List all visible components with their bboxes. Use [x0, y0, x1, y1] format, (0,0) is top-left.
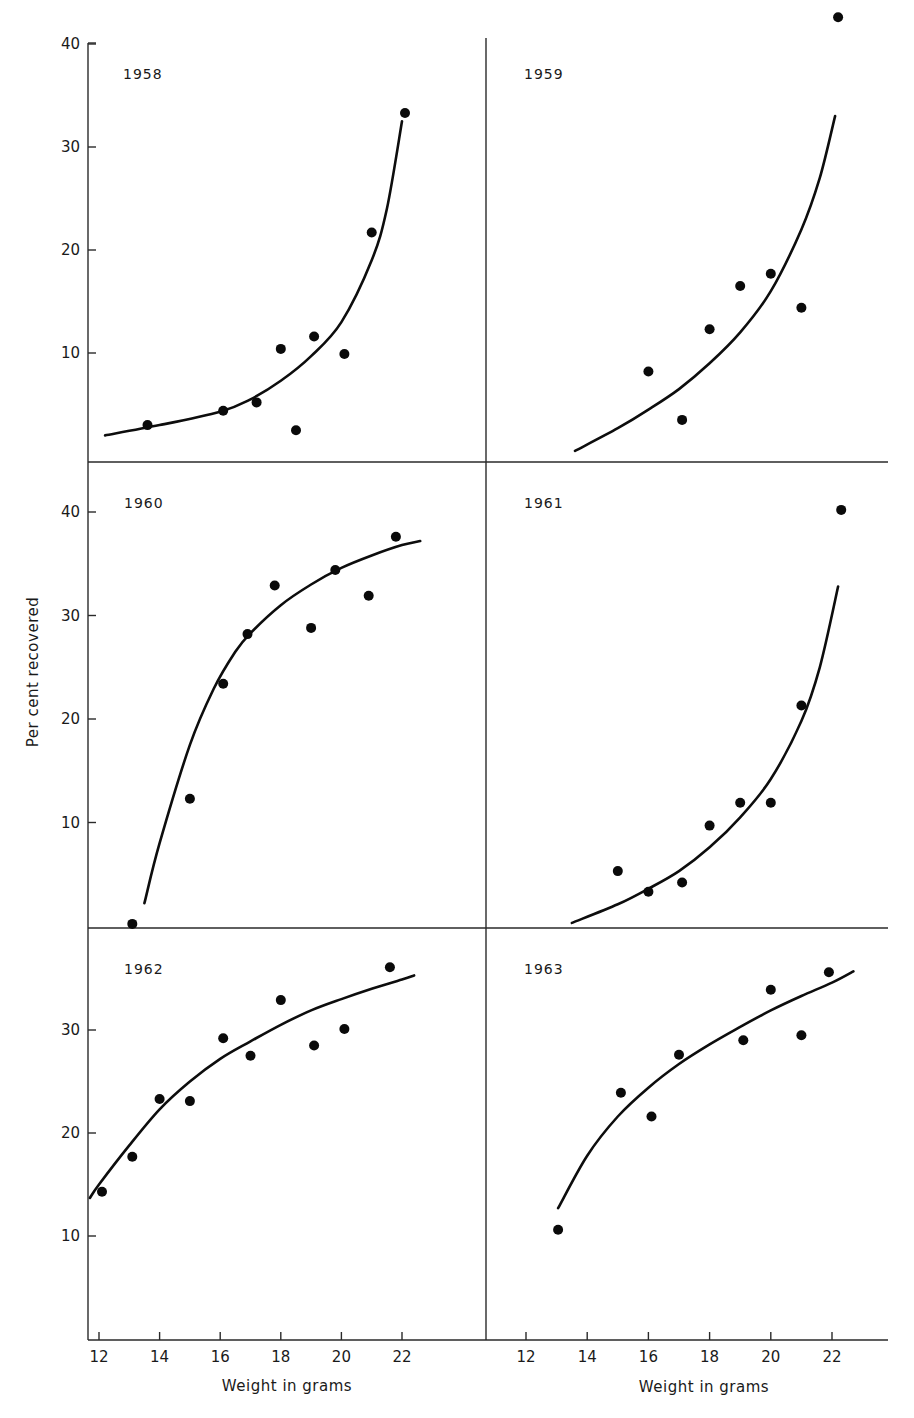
fitted-curve — [105, 121, 402, 435]
panel-1959: 1959 — [524, 12, 843, 451]
y-tick-label: 20 — [61, 710, 80, 728]
data-point — [185, 1096, 195, 1106]
data-point — [766, 798, 776, 808]
x-tick-label: 20 — [332, 1348, 351, 1366]
data-point — [400, 108, 410, 118]
panel-1960: 1960 — [124, 495, 420, 929]
data-point — [155, 1094, 165, 1104]
y-tick-label: 30 — [61, 607, 80, 625]
fitted-curve — [144, 541, 420, 903]
data-point — [309, 332, 319, 342]
data-point — [616, 1088, 626, 1098]
x-tick-label: 22 — [822, 1348, 841, 1366]
data-point — [677, 415, 687, 425]
figure: 1020304010203040102030 12141618202212141… — [0, 0, 914, 1418]
data-point — [218, 406, 228, 416]
x-tick-label: 12 — [89, 1348, 108, 1366]
data-point — [796, 701, 806, 711]
panel-year-label: 1962 — [124, 961, 164, 977]
data-point — [252, 397, 262, 407]
data-point — [276, 995, 286, 1005]
data-point — [643, 887, 653, 897]
y-tick-label: 10 — [61, 1227, 80, 1245]
y-tick-label: 20 — [61, 241, 80, 259]
x-axis-title-left: Weight in grams — [222, 1377, 352, 1395]
panel-year-label: 1958 — [123, 66, 163, 82]
data-point — [705, 821, 715, 831]
fitted-curve — [572, 587, 838, 923]
y-tick-label: 40 — [61, 503, 80, 521]
data-point — [553, 1225, 563, 1235]
panel-year-label: 1963 — [524, 961, 564, 977]
y-tick-label: 10 — [61, 814, 80, 832]
fitted-curve — [558, 971, 853, 1208]
panels: 195819591960196119621963 — [90, 12, 854, 1235]
data-point — [246, 1051, 256, 1061]
data-point — [364, 591, 374, 601]
data-point — [647, 1112, 657, 1122]
data-point — [613, 866, 623, 876]
y-tick-label: 30 — [61, 138, 80, 156]
data-point — [391, 532, 401, 542]
panel-1963: 1963 — [524, 961, 853, 1235]
data-point — [309, 1041, 319, 1051]
data-point — [766, 269, 776, 279]
data-point — [735, 281, 745, 291]
data-point — [339, 349, 349, 359]
data-point — [796, 303, 806, 313]
frame — [88, 38, 888, 1340]
data-point — [243, 629, 253, 639]
fitted-curve — [575, 116, 835, 451]
data-point — [705, 324, 715, 334]
data-point — [385, 962, 395, 972]
data-point — [270, 581, 280, 591]
data-point — [291, 425, 301, 435]
y-tick-label: 40 — [61, 35, 80, 53]
data-point — [796, 1030, 806, 1040]
x-tick-label: 18 — [271, 1348, 290, 1366]
panel-1962: 1962 — [90, 961, 414, 1198]
panel-1958: 1958 — [105, 66, 410, 435]
panel-year-label: 1961 — [524, 495, 564, 511]
data-point — [643, 367, 653, 377]
panel-year-label: 1959 — [524, 66, 564, 82]
data-point — [185, 794, 195, 804]
x-tick-label: 22 — [392, 1348, 411, 1366]
x-tick-label: 16 — [211, 1348, 230, 1366]
data-point — [766, 985, 776, 995]
data-point — [339, 1024, 349, 1034]
data-point — [735, 798, 745, 808]
data-point — [276, 344, 286, 354]
data-point — [833, 12, 843, 22]
data-point — [143, 420, 153, 430]
data-point — [824, 967, 834, 977]
panel-1961: 1961 — [524, 495, 846, 923]
x-tick-label: 20 — [761, 1348, 780, 1366]
data-point — [674, 1050, 684, 1060]
data-point — [218, 1033, 228, 1043]
data-point — [127, 1152, 137, 1162]
y-tick-label: 30 — [61, 1021, 80, 1039]
y-axis-title: Per cent recovered — [24, 597, 42, 748]
y-tick-label: 20 — [61, 1124, 80, 1142]
small-multiples-chart: 1020304010203040102030 12141618202212141… — [0, 0, 914, 1418]
x-tick-label: 18 — [700, 1348, 719, 1366]
data-point — [738, 1035, 748, 1045]
x-axis-title-right: Weight in grams — [639, 1378, 769, 1396]
x-tick-label: 14 — [578, 1348, 597, 1366]
data-point — [306, 623, 316, 633]
x-axis-ticks: 121416182022121416182022 — [89, 1332, 841, 1366]
y-tick-label: 10 — [61, 344, 80, 362]
data-point — [677, 878, 687, 888]
data-point — [367, 228, 377, 238]
x-tick-label: 12 — [516, 1348, 535, 1366]
fitted-curve — [90, 975, 414, 1198]
panel-year-label: 1960 — [124, 495, 164, 511]
data-point — [330, 565, 340, 575]
data-point — [127, 919, 137, 929]
data-point — [836, 505, 846, 515]
data-point — [97, 1187, 107, 1197]
x-tick-label: 14 — [150, 1348, 169, 1366]
data-point — [218, 679, 228, 689]
x-tick-label: 16 — [639, 1348, 658, 1366]
